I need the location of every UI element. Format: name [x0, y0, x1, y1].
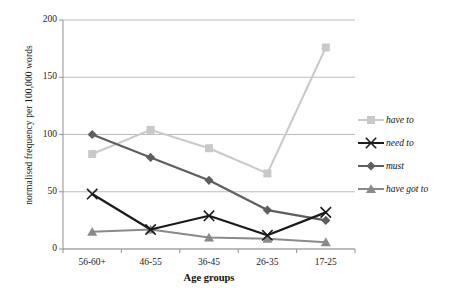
legend-swatch-triangle-icon: [358, 182, 384, 196]
y-axis-tick-label: 150: [27, 71, 57, 81]
data-point-diamond: [263, 205, 272, 214]
legend-item-label: must: [384, 161, 404, 171]
data-point-diamond: [204, 176, 213, 185]
data-point-square: [367, 116, 375, 124]
y-axis-tick-label: 100: [27, 129, 57, 139]
x-axis-tick-label: 17-25: [296, 257, 356, 267]
legend-marker-icon: [358, 113, 384, 127]
data-point-diamond: [366, 161, 375, 170]
data-point-square: [263, 169, 271, 177]
line-chart: normalised frequency per 100,000 words 2…: [0, 0, 460, 297]
legend-item-label: need to: [384, 138, 414, 148]
x-axis-tick-label: 36-45: [179, 257, 239, 267]
data-point-square: [147, 126, 155, 134]
data-point-square: [322, 43, 330, 51]
legend-swatch-x-icon: [358, 136, 384, 150]
series-must: [88, 130, 331, 225]
x-axis-tick-label: 26-35: [237, 257, 297, 267]
series-line: [92, 47, 326, 173]
y-axis-tick-label: 0: [27, 243, 57, 253]
legend-swatch-diamond-icon: [358, 159, 384, 173]
x-axis-title: Age groups: [63, 272, 355, 283]
data-point-diamond: [321, 216, 330, 225]
legend-item[interactable]: have to: [358, 108, 460, 131]
legend-item-label: have got to: [384, 184, 428, 194]
legend-marker-icon: [358, 159, 384, 173]
legend-item[interactable]: must: [358, 154, 460, 177]
data-point-diamond: [88, 130, 97, 139]
legend-item[interactable]: have got to: [358, 177, 460, 200]
legend-item-label: have to: [384, 115, 414, 125]
x-axis-tick-label: 46-55: [121, 257, 181, 267]
series-have-got-to: [87, 225, 331, 246]
legend-marker-icon: [358, 136, 384, 150]
legend-swatch-square-icon: [358, 113, 384, 127]
legend-marker-icon: [358, 182, 384, 196]
data-point-square: [205, 144, 213, 152]
x-axis-tick-label: 56-60+: [62, 257, 122, 267]
data-point-square: [88, 150, 96, 158]
y-axis-tick-label: 200: [27, 14, 57, 24]
chart-legend: have toneed tomusthave got to: [358, 108, 460, 200]
data-point-diamond: [146, 153, 155, 162]
y-axis-title: normalised frequency per 100,000 words: [24, 0, 34, 250]
data-point-triangle: [366, 184, 376, 193]
series-have-to: [88, 43, 330, 177]
y-axis-tick-label: 50: [27, 186, 57, 196]
legend-item[interactable]: need to: [358, 131, 460, 154]
